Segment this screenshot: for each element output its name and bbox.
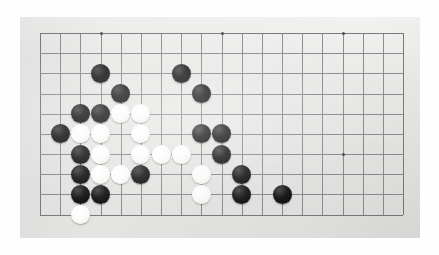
go-stone-white[interactable] [131,124,150,143]
go-stone-white[interactable] [192,185,211,204]
go-stone-black[interactable] [91,104,110,123]
go-stone-white[interactable] [131,104,150,123]
go-stone-black[interactable] [212,145,231,164]
go-stone-black[interactable] [51,124,70,143]
go-stone-black[interactable] [91,64,110,83]
go-board-stones[interactable] [0,0,439,255]
go-stone-white[interactable] [131,145,150,164]
go-stone-white[interactable] [71,205,90,224]
screenshot-root [0,0,439,255]
go-stone-white[interactable] [71,124,90,143]
go-stone-white[interactable] [111,165,130,184]
go-stone-white[interactable] [91,165,110,184]
go-stone-black[interactable] [71,165,90,184]
go-stone-black[interactable] [91,185,110,204]
go-stone-black[interactable] [273,185,292,204]
go-stone-white[interactable] [152,145,171,164]
go-stone-black[interactable] [111,84,130,103]
go-stone-black[interactable] [192,124,211,143]
go-stone-black[interactable] [71,104,90,123]
go-stone-black[interactable] [71,145,90,164]
go-stone-white[interactable] [172,145,191,164]
go-stone-black[interactable] [131,165,150,184]
go-stone-white[interactable] [91,145,110,164]
go-stone-black[interactable] [192,84,211,103]
go-stone-black[interactable] [212,124,231,143]
go-stone-white[interactable] [192,165,211,184]
go-stone-black[interactable] [232,185,251,204]
go-stone-white[interactable] [91,124,110,143]
go-stone-white[interactable] [111,104,130,123]
go-stone-black[interactable] [71,185,90,204]
go-stone-black[interactable] [172,64,191,83]
go-stone-black[interactable] [232,165,251,184]
